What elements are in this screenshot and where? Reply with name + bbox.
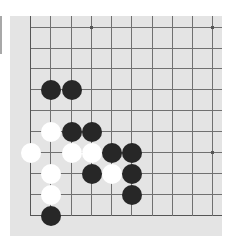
black-stone [82, 164, 102, 184]
white-stone [82, 143, 102, 163]
black-stone [41, 80, 61, 100]
white-stone [41, 122, 61, 142]
black-stone [102, 143, 122, 163]
grid-line-horizontal [30, 110, 222, 111]
grid-line-horizontal [30, 68, 222, 69]
black-stone [41, 206, 61, 226]
black-stone [122, 185, 142, 205]
star-point [211, 26, 214, 29]
grid-line-vertical [172, 16, 173, 216]
black-stone [122, 164, 142, 184]
white-stone [41, 164, 61, 184]
page-edge-bar [0, 16, 2, 54]
white-stone [62, 143, 82, 163]
white-stone [21, 143, 41, 163]
black-stone [62, 122, 82, 142]
white-stone [41, 185, 61, 205]
grid-line-vertical [91, 16, 92, 216]
grid-line-vertical [111, 16, 112, 216]
star-point [211, 151, 214, 154]
black-stone [122, 143, 142, 163]
black-stone [62, 80, 82, 100]
grid-line-vertical [30, 16, 31, 216]
grid-line-vertical [212, 16, 213, 216]
black-stone [82, 122, 102, 142]
grid-line-vertical [192, 16, 193, 216]
grid-line-horizontal [30, 48, 222, 49]
grid-line-vertical [152, 16, 153, 216]
grid-line-horizontal [30, 27, 222, 28]
grid-line-vertical [71, 16, 72, 216]
star-point [90, 26, 93, 29]
white-stone [102, 164, 122, 184]
